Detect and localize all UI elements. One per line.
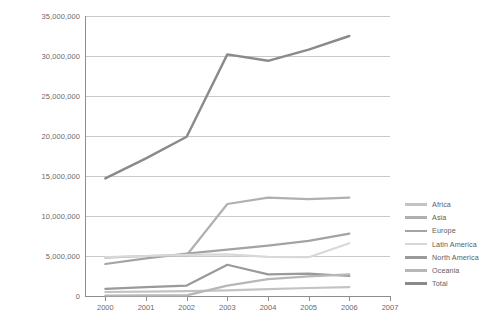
legend-item-asia[interactable]: Asia (405, 211, 491, 224)
legend-swatch (405, 282, 427, 285)
legend-item-oceania[interactable]: Oceania (405, 264, 491, 277)
legend-label: Asia (432, 213, 446, 222)
legend-swatch (405, 230, 427, 233)
line-chart: Hectares 05,000,00010,000,00015,000,0002… (0, 0, 491, 333)
legend-label: Total (432, 279, 448, 288)
legend-item-total[interactable]: Total (405, 277, 491, 290)
legend-item-latin-america[interactable]: Latin America (405, 238, 491, 251)
legend-item-north-america[interactable]: North America (405, 251, 491, 264)
legend-swatch (405, 269, 427, 272)
series-line-europe (105, 234, 349, 264)
legend-label: Oceania (432, 266, 459, 275)
legend-swatch (405, 256, 427, 259)
legend-label: Latin America (432, 240, 477, 249)
legend-swatch (405, 243, 427, 246)
legend-swatch (405, 216, 427, 219)
chart-legend: AfricaAsiaEuropeLatin AmericaNorth Ameri… (405, 198, 491, 290)
legend-swatch (405, 203, 427, 206)
legend-label: North America (432, 253, 479, 262)
legend-label: Africa (432, 200, 451, 209)
series-line-total (105, 36, 349, 178)
legend-label: Europe (432, 226, 456, 235)
legend-item-europe[interactable]: Europe (405, 224, 491, 237)
legend-item-africa[interactable]: Africa (405, 198, 491, 211)
